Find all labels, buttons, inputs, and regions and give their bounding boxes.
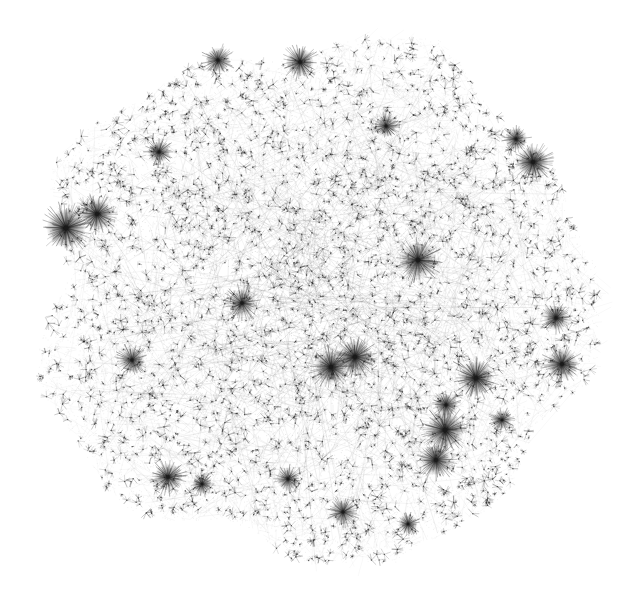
network-graph-canvas — [0, 0, 628, 602]
network-graph-figure — [0, 0, 628, 602]
